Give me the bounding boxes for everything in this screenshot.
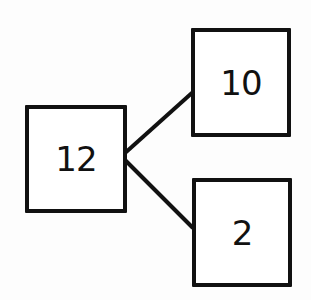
part-label-top: 10 [220,63,261,103]
number-bond-diagram: 12 10 2 [0,0,311,300]
part-box-bottom: 2 [192,178,292,287]
whole-label: 12 [55,139,96,179]
whole-box: 12 [25,105,127,213]
connector-line-whole-to-part-a [125,92,193,153]
part-box-top: 10 [191,28,291,137]
connector-line-whole-to-part-b [125,160,193,228]
part-label-bottom: 2 [232,213,253,253]
